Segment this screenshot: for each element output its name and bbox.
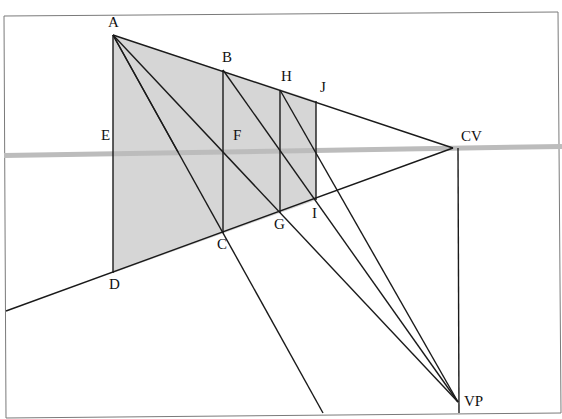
label-g: G [274, 216, 285, 232]
label-d: D [109, 276, 120, 292]
perspective-diagram: A B H J E F CV C G I D VP [0, 0, 562, 419]
label-b: B [222, 49, 232, 65]
label-cv: CV [461, 128, 482, 144]
label-a: A [108, 14, 119, 30]
vertical-cv-vp [458, 148, 459, 413]
label-c: C [217, 236, 227, 252]
label-vp: VP [464, 393, 483, 409]
label-f: F [233, 127, 241, 143]
label-e: E [101, 127, 110, 143]
diagonal-h-vp [280, 90, 458, 402]
label-j: J [320, 79, 326, 95]
label-i: I [312, 205, 317, 221]
diagonal-b-vp [223, 70, 458, 402]
label-h: H [281, 68, 292, 84]
